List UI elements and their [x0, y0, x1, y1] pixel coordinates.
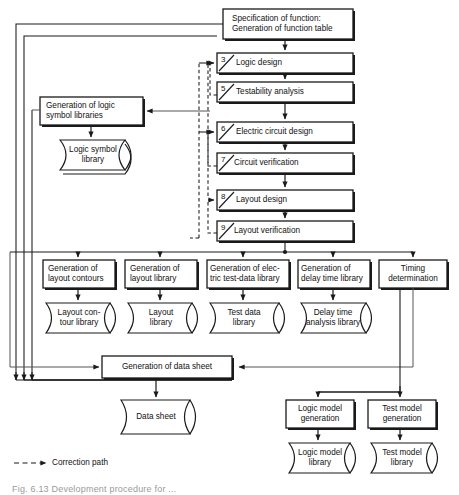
shape-logic-symbol-library — [60, 140, 125, 170]
correction-paths — [190, 63, 217, 238]
box-outlines — [40, 9, 447, 428]
correction-circuitver — [208, 132, 217, 166]
number-circuit-verification: 7 — [221, 156, 225, 164]
figure-caption: Fig. 6.13 Development procedure for ... — [12, 484, 176, 494]
box-gen-data-sheet — [102, 356, 232, 378]
box-logic-design — [217, 53, 353, 73]
box-layout-design — [217, 190, 353, 210]
box-spec — [223, 9, 353, 39]
number-electric-circuit: 6 — [221, 125, 225, 133]
box-logic-model-generation — [286, 400, 354, 428]
legend-label: Correction path — [52, 458, 108, 467]
box-gen-logic-symbol — [40, 97, 143, 125]
box-electric-circuit — [217, 122, 353, 142]
box-layout-verification — [217, 221, 353, 241]
figure-canvas: Specification of function: Generation of… — [0, 0, 459, 495]
left-feedback-loops — [16, 24, 232, 380]
box-circuit-verification — [217, 153, 353, 173]
box-test-model-generation — [368, 400, 436, 428]
box-gen-layout-library — [125, 260, 197, 288]
box-gen-delay-time — [298, 260, 370, 288]
loop-to-spec — [16, 24, 223, 380]
shape-delay-time-library — [301, 303, 366, 333]
number-logic-design: 3 — [221, 56, 225, 64]
distribution-bus-drops — [78, 252, 413, 257]
number-layout-verification: 9 — [221, 224, 225, 232]
correction-testability — [210, 63, 217, 95]
shape-layout-contour-library — [46, 303, 110, 333]
box-testability — [217, 82, 353, 102]
box-gen-layout-contours — [43, 260, 115, 288]
box-timing-determination — [379, 260, 447, 288]
correction-arrowheads — [199, 63, 214, 200]
box-gen-test-data — [207, 260, 289, 288]
shape-test-model-library — [371, 443, 432, 473]
shape-layout-library — [128, 303, 192, 333]
correction-layoutver — [208, 200, 217, 233]
diagram-svg — [0, 0, 459, 495]
number-testability: 5 — [221, 85, 225, 93]
number-layout-design: 8 — [221, 193, 225, 201]
shape-test-data-library — [210, 303, 279, 333]
shape-logic-model-library — [289, 443, 350, 473]
left-feedback-arrowheads — [16, 372, 32, 380]
shape-data-sheet — [121, 400, 190, 434]
